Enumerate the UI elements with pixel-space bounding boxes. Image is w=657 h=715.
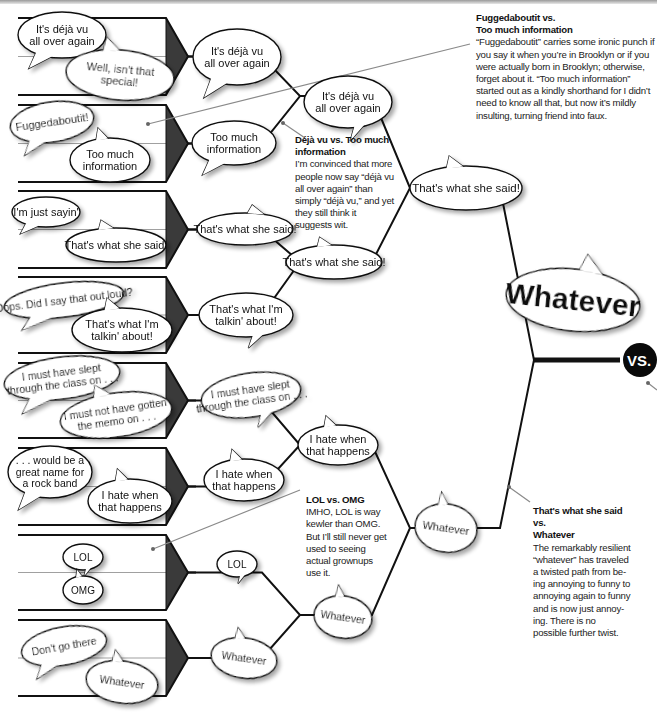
round3-bubble: Whatever [311,583,376,642]
bubble-tail-fill [324,416,336,427]
note-heading-line: Too much information [476,24,657,36]
note-fuggedaboutit-vs-too-much-information: Fuggedaboutit vs. Too much information “… [476,12,657,122]
round1-bubble-b: OMG [63,570,103,604]
vs-label: VS. [627,352,651,369]
bubble-text: It's déjà vu [36,23,88,35]
bubble-tail-fill [230,450,242,462]
bubble-text: that happens [306,445,370,457]
note-heading-line: Déjà vu vs. Too much [295,134,395,146]
bubble-text: information [207,143,261,155]
winner-bubble: Whatever [503,247,646,338]
note-heading-line: That's what she said vs. [533,505,631,529]
bubble-text: I hate when [310,433,367,445]
round2-bubble: Whatever [209,625,281,683]
round2-bubble: I hate whenthat happens [204,450,284,501]
bubble-text: talkin' about! [215,315,276,327]
round2-bubble: Too muchinformation [192,121,276,175]
bubble-text: Too much [210,131,258,143]
round2-bubble: It's déjà vuall over again [193,29,281,98]
pentagon-arrow [166,363,188,438]
round1-bubble-b: Whatever [83,647,161,708]
bubble-text: OMG [71,585,95,596]
bubble-tail-fill [446,156,463,169]
round1-bubble-a: I'm just sayin' [12,197,80,234]
note-heading-line: Whatever [533,529,631,541]
note-heading-line: LOL vs. OMG [306,494,388,506]
bubble-text: I hate when [102,489,159,501]
round1-bubble-a: . . . would be agreat name fora rock ban… [8,446,92,510]
bubble-text: that happens [98,501,162,513]
bubble-text: Too much [86,148,134,160]
bubble-text: information [83,160,137,172]
bubble-text: talkin' about! [91,330,152,342]
pentagon-arrow [166,277,188,353]
note-heading-line: Fuggedaboutit vs. [476,12,657,24]
matchup-box-7 [18,535,188,610]
pentagon-arrow [166,535,188,610]
bubble-text: that happens [212,480,276,492]
round1-bubble-a: LOL [63,544,103,577]
round2-bubble: I must have sleptthrough the class on . … [192,365,311,435]
round1-bubble-b: That's what she said! [65,220,168,262]
note-body: “Fuggedaboutit” carries some ironic punc… [476,36,657,121]
bubble-text: a rock band [23,477,78,489]
round1-bubble-b: Too muchinformation [70,128,150,182]
round3-bubble: I hate whenthat happens [298,416,378,465]
note-body: I’m convinced that more people now say “… [295,158,395,231]
bubble-text: It's déjà vu [322,90,374,102]
note-lol-vs-omg: LOL vs. OMG IMHO, LOL is way kewler than… [306,494,388,579]
round3-bubble: It's déjà vuall over again [304,76,392,141]
round2-bubble: That's what she said! [194,205,297,245]
bubble-text: It's déjà vu [211,45,263,57]
note-deja-vu-vs-too-much-information: Déjà vu vs. Too much information I’m con… [295,134,395,232]
bubble-text: That's what she said! [283,256,386,268]
bubble-text: That's what she said! [412,182,520,194]
note-body: IMHO, LOL is way kewler than OMG. But I’… [306,506,388,579]
round1-bubble-b: I hate whenthat happens [88,469,172,523]
bubble-text: all over again [204,57,269,69]
note-body: The remarkably resilient “whatever” has … [533,542,631,640]
bubble-text: all over again [315,102,380,114]
bubble-text: That's what I'm [209,303,282,315]
note-thats-what-she-said-vs-whatever: That's what she said vs. Whatever The re… [533,505,631,639]
bubble-tail-fill [115,469,128,482]
bubble-text: That's what I'm [85,318,158,330]
round2-bubble: That's what I'mtalkin' about! [199,293,293,348]
bubble-tail-fill [317,237,331,247]
bubble-tail-fill [99,220,114,230]
semifinal-bubble: That's what she said! [410,156,522,210]
vs-badge: VS. [623,343,657,377]
bubble-text: all over again [29,35,94,47]
bubble-text: I'm just sayin' [13,206,78,218]
bubble-text: That's what she said! [194,223,297,235]
bubble-text: great name for [16,466,85,478]
bubble-text: . . . would be a [16,454,84,466]
bubble-tail-fill [76,570,82,578]
pentagon-arrow [166,620,188,696]
pentagon-arrow [166,191,188,268]
note-heading-line: information [295,146,395,158]
semifinal-bubble: Whatever [412,489,482,556]
pentagon-arrow [166,448,188,525]
bubble-tail-fill [96,128,108,141]
round2-bubble: LOL [217,551,257,584]
bubble-text: That's what she said! [65,239,168,251]
bubble-text: LOL [228,559,247,570]
bubble-tail-fill [247,205,264,215]
bubble-text: LOL [74,552,93,563]
bubble-text: I hate when [216,468,273,480]
round3-bubble: That's what she said! [283,237,386,279]
